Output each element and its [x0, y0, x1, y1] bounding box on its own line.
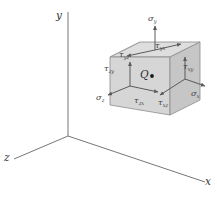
sigma-x-subscript: x — [197, 93, 200, 99]
stress-label-tau-zy: τzy — [104, 64, 114, 72]
stress-label-tau-zx: τzx — [134, 96, 144, 104]
tau-xy-subscript: xy — [188, 66, 194, 72]
tau-zx-subscript: zx — [139, 100, 145, 106]
stress-element-figure: y x z Q σy σx σz τyx τyz τzy τzx τxy τxz — [0, 0, 217, 198]
sigma-y-subscript: y — [154, 18, 157, 24]
axis-label-x: x — [205, 176, 211, 187]
stress-label-tau-xz: τxz — [158, 98, 168, 106]
point-label-q: Q — [140, 69, 149, 80]
sigma-z-symbol: σ — [96, 92, 102, 102]
stress-label-tau-yx: τyx — [155, 41, 165, 49]
tau-zx-symbol: τ — [134, 95, 139, 105]
tau-yz-symbol: τ — [119, 49, 124, 59]
point-q-marker — [150, 74, 154, 78]
z-axis-line — [14, 136, 68, 159]
tau-xz-symbol: τ — [158, 97, 163, 107]
sigma-y-symbol: σ — [148, 13, 154, 23]
stress-label-sigma-z: σz — [96, 93, 104, 101]
axis-label-y: y — [56, 10, 62, 21]
stress-label-tau-yz: τyz — [119, 50, 129, 58]
tau-zy-subscript: zy — [109, 68, 115, 74]
figure-canvas — [0, 0, 217, 198]
stress-label-sigma-y: σy — [148, 14, 156, 22]
tau-xy-symbol: τ — [183, 61, 188, 71]
tau-xz-subscript: xz — [163, 102, 169, 108]
stress-label-sigma-x: σx — [191, 89, 199, 97]
axis-label-z: z — [4, 152, 10, 163]
tau-zy-symbol: τ — [104, 63, 109, 73]
tau-yx-subscript: yx — [160, 45, 166, 51]
sigma-x-symbol: σ — [191, 88, 197, 98]
x-axis-line — [68, 136, 205, 182]
tau-yx-symbol: τ — [155, 40, 160, 50]
tau-yz-subscript: yz — [124, 54, 130, 60]
stress-label-tau-xy: τxy — [183, 62, 193, 70]
